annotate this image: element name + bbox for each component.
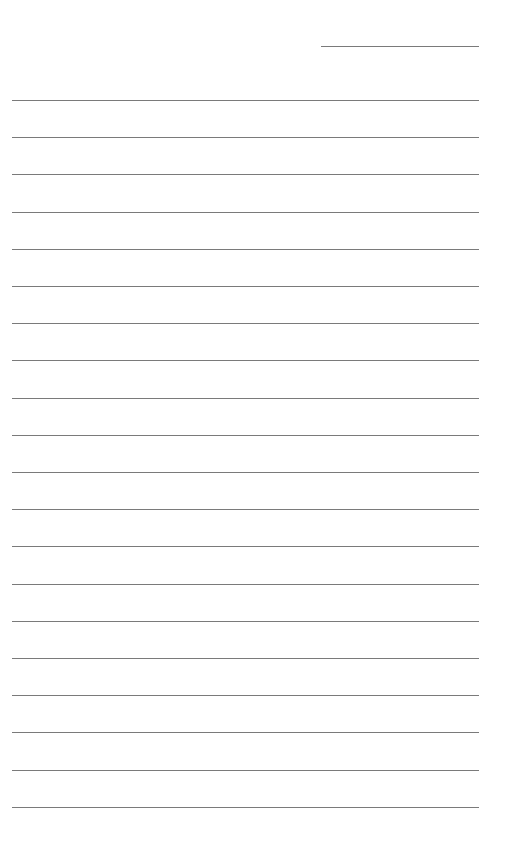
ruled-line (12, 807, 479, 808)
ruled-line (12, 249, 479, 250)
ruled-line (12, 286, 479, 287)
ruled-line (12, 174, 479, 175)
ruled-line (12, 621, 479, 622)
ruled-line (12, 323, 479, 324)
ruled-line (12, 100, 479, 101)
date-header-line (321, 46, 479, 47)
ruled-line (12, 695, 479, 696)
ruled-line (12, 472, 479, 473)
ruled-line (12, 658, 479, 659)
lined-paper-page (0, 0, 512, 866)
ruled-line (12, 212, 479, 213)
ruled-line (12, 732, 479, 733)
ruled-line (12, 137, 479, 138)
ruled-line (12, 509, 479, 510)
ruled-line (12, 770, 479, 771)
ruled-line (12, 546, 479, 547)
ruled-line (12, 398, 479, 399)
ruled-line (12, 360, 479, 361)
ruled-line (12, 584, 479, 585)
ruled-line (12, 435, 479, 436)
